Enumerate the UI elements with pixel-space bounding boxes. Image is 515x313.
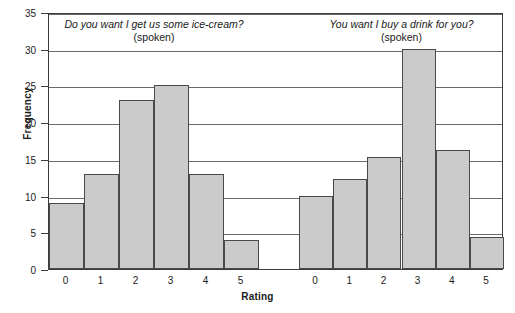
- panel-title-mode: (spoken): [299, 31, 504, 44]
- x-axis-title: Rating: [0, 291, 515, 302]
- panel-title-question: You want I buy a drink for you?: [299, 18, 504, 31]
- y-tick-label-35: 35: [25, 8, 36, 19]
- y-tick-label-5: 5: [30, 228, 36, 239]
- bar: [189, 174, 224, 269]
- y-tick-label-20: 20: [25, 118, 36, 129]
- y-tick-mark-20: [41, 123, 48, 124]
- bar: [84, 174, 119, 269]
- y-tick-mark-15: [41, 160, 48, 161]
- bar: [333, 179, 367, 269]
- bar: [436, 150, 470, 269]
- bar: [154, 85, 189, 269]
- x-tick-label: 0: [63, 275, 69, 286]
- y-tick-mark-10: [41, 197, 48, 198]
- panel-title-mode: (spoken): [49, 31, 259, 44]
- y-tick-label-30: 30: [25, 44, 36, 55]
- x-tick-label: 2: [133, 275, 139, 286]
- plot-area: Do you want I get us some ice-cream?(spo…: [48, 13, 503, 270]
- x-tick-label: 2: [381, 275, 387, 286]
- bar: [224, 240, 259, 269]
- y-tick-mark-30: [41, 50, 48, 51]
- frequency-histogram-figure: Frequency 05101520253035 Do you want I g…: [0, 0, 515, 313]
- x-tick-label: 1: [98, 275, 104, 286]
- y-tick-mark-25: [41, 86, 48, 87]
- x-tick-label: 0: [312, 275, 318, 286]
- x-tick-label: 3: [168, 275, 174, 286]
- x-tick-label: 4: [203, 275, 209, 286]
- x-tick-label: 5: [238, 275, 244, 286]
- y-tick-mark-5: [41, 233, 48, 234]
- x-tick-label: 1: [346, 275, 352, 286]
- gridline-35: [49, 14, 502, 15]
- x-tick-label: 4: [449, 275, 455, 286]
- bar: [367, 157, 401, 269]
- y-tick-mark-0: [41, 270, 48, 271]
- y-tick-label-15: 15: [25, 154, 36, 165]
- panel-title: You want I buy a drink for you?(spoken): [299, 18, 504, 44]
- bar: [299, 196, 333, 269]
- x-tick-label: 5: [483, 275, 489, 286]
- y-tick-mark-35: [41, 13, 48, 14]
- bar: [49, 203, 84, 269]
- y-tick-label-10: 10: [25, 191, 36, 202]
- y-axis-ticks: 05101520253035: [0, 0, 48, 313]
- y-tick-label-0: 0: [30, 265, 36, 276]
- bar: [119, 100, 154, 269]
- x-tick-label: 3: [415, 275, 421, 286]
- panel-title: Do you want I get us some ice-cream?(spo…: [49, 18, 259, 44]
- y-tick-label-25: 25: [25, 81, 36, 92]
- bar: [470, 237, 504, 269]
- panel-title-question: Do you want I get us some ice-cream?: [49, 18, 259, 31]
- bar: [402, 49, 436, 269]
